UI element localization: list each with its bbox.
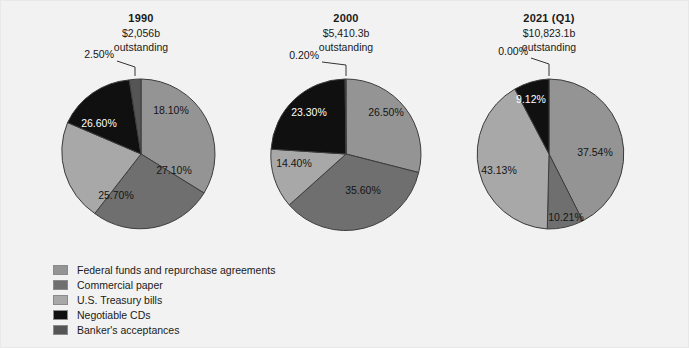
slice-label-bankers-acceptances: 2.50%	[84, 48, 114, 60]
slice-label-bankers-acceptances: 0.20%	[289, 49, 319, 61]
legend-label: Federal funds and repurchase agreements	[77, 264, 275, 276]
legend-label: Commercial paper	[77, 279, 163, 291]
panel-amount: $2,056b	[31, 26, 251, 40]
panel-subtitle: outstanding	[236, 40, 456, 54]
slice-label-treasury-bills: 25.70%	[98, 189, 134, 201]
panel-header-2021: 2021 (Q1) $10,823.1b outstanding	[439, 1, 659, 54]
slice-label-commercial-paper: 27.10%	[156, 164, 192, 176]
pie-wrap-1990: 18.10% 27.10% 25.70% 26.60% 2.50%	[31, 54, 251, 239]
leader-line-bankers-acceptances	[322, 62, 346, 76]
pie-wrap-2000: 26.50% 35.60% 14.40% 23.30% 0.20%	[236, 54, 456, 239]
leader-line-bankers-acceptances	[531, 58, 549, 76]
pie-chart-figure: 1990 $2,056b outstanding 18.10% 27.10% 2…	[0, 0, 689, 348]
pie-svg-2000: 26.50% 35.60% 14.40% 23.30% 0.20%	[236, 54, 456, 239]
legend-swatch-negotiable-cds	[53, 310, 68, 320]
leader-line-bankers-acceptances	[117, 61, 135, 76]
panel-subtitle: outstanding	[31, 40, 251, 54]
slice-label-treasury-bills: 14.40%	[276, 157, 312, 169]
panel-header-2000: 2000 $5,410.3b outstanding	[236, 1, 456, 54]
pie-panel-2000: 2000 $5,410.3b outstanding 26.50% 35.60%…	[236, 1, 456, 261]
legend-item: Banker's acceptances	[53, 322, 275, 337]
slice-label-negotiable-cds: 26.60%	[81, 117, 117, 129]
panel-year: 1990	[31, 11, 251, 26]
pie-svg-1990: 18.10% 27.10% 25.70% 26.60% 2.50%	[31, 54, 251, 239]
slice-label-negotiable-cds: 23.30%	[291, 106, 327, 118]
legend-item: Negotiable CDs	[53, 307, 275, 322]
legend-swatch-federal-funds	[53, 265, 68, 275]
panel-amount: $5,410.3b	[236, 26, 456, 40]
slice-label-commercial-paper: 35.60%	[345, 184, 381, 196]
slice-label-bankers-acceptances: 0.00%	[498, 45, 528, 57]
slice-label-federal-funds: 26.50%	[368, 106, 404, 118]
legend-label: U.S. Treasury bills	[77, 294, 162, 306]
legend-swatch-treasury-bills	[53, 295, 68, 305]
panel-year: 2000	[236, 11, 456, 26]
panel-subtitle: outstanding	[439, 40, 659, 54]
legend-label: Banker's acceptances	[77, 324, 179, 336]
legend-item: Federal funds and repurchase agreements	[53, 262, 275, 277]
legend-label: Negotiable CDs	[77, 309, 151, 321]
pie-slices-2000	[271, 79, 421, 230]
slice-label-federal-funds: 18.10%	[153, 104, 189, 116]
legend-item: U.S. Treasury bills	[53, 292, 275, 307]
pie-svg-2021: 37.54% 10.21% 43.13% 9.12% 0.00%	[439, 54, 659, 239]
pie-panel-1990: 1990 $2,056b outstanding 18.10% 27.10% 2…	[31, 1, 251, 261]
panel-header-1990: 1990 $2,056b outstanding	[31, 1, 251, 54]
legend-swatch-bankers-acceptances	[53, 325, 68, 335]
pie-slices-1990	[62, 79, 215, 229]
slice-label-commercial-paper: 10.21%	[548, 211, 584, 223]
pie-wrap-2021: 37.54% 10.21% 43.13% 9.12% 0.00%	[439, 54, 659, 239]
slice-label-negotiable-cds: 9.12%	[516, 93, 546, 105]
slice-label-federal-funds: 37.54%	[577, 146, 613, 158]
pie-panel-2021: 2021 (Q1) $10,823.1b outstanding 37.54% …	[439, 1, 659, 261]
legend: Federal funds and repurchase agreements …	[53, 262, 275, 337]
slice-label-treasury-bills: 43.13%	[481, 164, 517, 176]
legend-swatch-commercial-paper	[53, 280, 68, 290]
legend-item: Commercial paper	[53, 277, 275, 292]
panel-amount: $10,823.1b	[439, 26, 659, 40]
panel-year: 2021 (Q1)	[439, 11, 659, 26]
